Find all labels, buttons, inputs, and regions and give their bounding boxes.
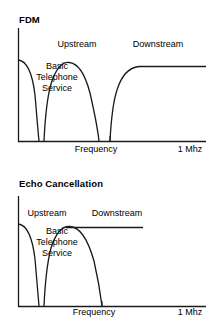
fdm-label-basic-telephone-service: Basic Telephone Service — [36, 61, 78, 94]
echo-pots-line-1: Basic — [36, 226, 78, 237]
fdm-panel: FDM Upstream Downstream Basic Telephone … — [0, 0, 214, 166]
echo-label-upstream: Upstream — [27, 208, 66, 219]
fdm-label-upstream: Upstream — [57, 39, 96, 50]
echo-pots-line-2: Telephone — [36, 237, 78, 248]
fdm-plot — [0, 0, 214, 166]
fdm-label-downstream: Downstream — [133, 39, 184, 50]
diagram-page: { "figure": { "caption_absent": true }, … — [0, 0, 214, 333]
echo-label-basic-telephone-service: Basic Telephone Service — [36, 226, 78, 259]
fdm-curve-downstream — [110, 67, 206, 142]
fdm-x-axis-label: Frequency — [75, 144, 118, 155]
echo-label-downstream: Downstream — [92, 208, 143, 219]
echo-cancellation-panel: Echo Cancellation Upstream Downstream Ba… — [0, 166, 214, 333]
fdm-pots-line-2: Telephone — [36, 72, 78, 83]
fdm-pots-line-3: Service — [36, 83, 78, 94]
fdm-x-axis-max-label: 1 Mhz — [178, 144, 203, 155]
echo-x-axis-label: Frequency — [73, 307, 116, 318]
fdm-pots-line-1: Basic — [36, 61, 78, 72]
echo-x-axis-max-label: 1 Mhz — [178, 307, 203, 318]
echo-pots-line-3: Service — [36, 248, 78, 259]
